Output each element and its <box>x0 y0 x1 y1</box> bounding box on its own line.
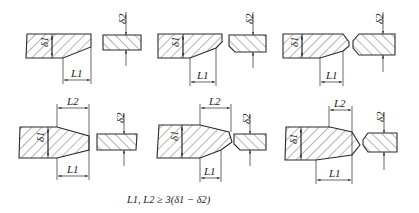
figure-row2-col3: δ1 L2 L1 δ2 <box>285 97 397 184</box>
L1-label: L1 <box>70 67 83 79</box>
delta2-label: δ2 <box>243 13 255 24</box>
delta2-label: δ2 <box>240 113 252 124</box>
thin-plate <box>97 134 137 150</box>
delta2-label: δ2 <box>114 112 126 123</box>
thick-plate <box>19 127 89 158</box>
figure-row1-col1: δ1 L1 δ2 <box>26 12 141 84</box>
thin-plate <box>363 133 397 152</box>
delta1-label: δ1 <box>169 36 181 47</box>
delta1-label: δ1 <box>168 130 180 141</box>
figure-row1-col3: δ1 L1 δ2 <box>283 12 395 86</box>
delta2-label: δ2 <box>373 13 385 24</box>
figure-row2-col1: δ1 L2 L1 δ2 <box>19 95 137 180</box>
thin-plate <box>229 35 266 52</box>
delta1-label: δ1 <box>38 36 50 47</box>
L1-label: L1 <box>328 167 341 179</box>
thin-plate <box>234 134 266 150</box>
delta2-label: δ2 <box>374 111 386 122</box>
L1-label: L1 <box>196 69 209 81</box>
plate-transition-diagram: δ1 L1 δ2 δ1 L1 δ2 δ1 L1 δ <box>0 0 419 213</box>
thick-plate <box>158 34 222 58</box>
figure-row2-col2: δ1 L2 L1 δ2 <box>157 95 266 182</box>
formula-caption: L1, L2 ≥ 3(δ1 − δ2) <box>126 194 211 206</box>
delta2-label: δ2 <box>116 13 128 24</box>
L1-label: L1 <box>325 69 338 81</box>
thin-plate <box>353 34 395 55</box>
L1-label: L1 <box>203 165 216 177</box>
diagram-canvas: δ1 L1 δ2 δ1 L1 δ2 δ1 L1 δ <box>0 0 419 213</box>
L1-label: L1 <box>66 163 79 175</box>
thin-plate <box>103 35 141 50</box>
L2-label: L2 <box>333 97 346 109</box>
L2-label: L2 <box>66 95 79 107</box>
figure-row1-col2: δ1 L1 δ2 <box>158 12 266 86</box>
L2-label: L2 <box>208 95 221 107</box>
delta1-label: δ1 <box>288 36 300 47</box>
delta1-label: δ1 <box>34 131 46 142</box>
thick-plate <box>26 34 91 58</box>
delta1-label: δ1 <box>287 133 299 144</box>
